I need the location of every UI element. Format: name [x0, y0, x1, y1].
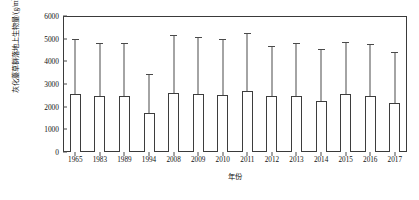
y-axis-title-text: 灰化薹草群落地上生物量/(g/m — [12, 0, 20, 93]
bar-slot — [333, 16, 358, 152]
x-axis-tick-label: 1994 — [142, 156, 156, 164]
bar-slot — [358, 16, 383, 152]
error-bar — [247, 33, 248, 91]
bar-slot — [210, 16, 235, 152]
x-axis-tick: 1983 — [88, 152, 113, 166]
x-axis-tick: 1965 — [63, 152, 88, 166]
x-axis-tick-mark — [271, 152, 272, 156]
x-axis-tick: 2010 — [210, 152, 235, 166]
error-bar — [124, 43, 125, 97]
x-axis-tick: 2012 — [260, 152, 285, 166]
x-axis-tick: 1989 — [112, 152, 137, 166]
x-axis-tick: 2013 — [284, 152, 309, 166]
error-bar-cap — [146, 74, 153, 75]
x-axis-tick-mark — [370, 152, 371, 156]
error-bar-cap — [121, 43, 128, 44]
error-bar-cap — [318, 49, 325, 50]
y-axis-tick-label: 6000 — [23, 12, 59, 21]
y-axis-title: 灰化薹草群落地上生物量/(g/m2) — [9, 0, 21, 114]
error-bar — [173, 35, 174, 93]
x-axis-tick-mark — [149, 152, 150, 156]
y-axis-tick-label: 3000 — [23, 80, 59, 89]
error-bar-cap — [367, 44, 374, 45]
error-bar-cap — [391, 52, 398, 53]
error-bar-cap — [195, 37, 202, 38]
x-axis-tick: 2016 — [358, 152, 383, 166]
error-bar — [198, 37, 199, 94]
chart-figure: 灰化薹草群落地上生物量/(g/m2) 010002000300040005000… — [0, 0, 419, 200]
y-axis-tick-label: 5000 — [23, 34, 59, 43]
x-axis-ticks: 1965198319891994200820092010201120122013… — [63, 152, 407, 166]
x-axis-tick-label: 2013 — [289, 156, 303, 164]
y-axis-tick-label: 0 — [23, 148, 59, 157]
error-bar-cap — [293, 43, 300, 44]
x-axis-tick-mark — [321, 152, 322, 156]
bar-slot — [309, 16, 334, 152]
x-axis-tick: 1994 — [137, 152, 162, 166]
bar — [94, 96, 105, 152]
error-bar — [394, 52, 395, 103]
y-axis-tick-label: 1000 — [23, 125, 59, 134]
error-bar — [75, 39, 76, 95]
error-bar — [321, 49, 322, 101]
bar — [316, 101, 327, 152]
error-bar-cap — [170, 35, 177, 36]
bar — [193, 94, 204, 152]
bar — [266, 96, 277, 152]
bar-slot — [137, 16, 162, 152]
error-bar — [222, 39, 223, 95]
error-bar-cap — [219, 39, 226, 40]
x-axis-tick-mark — [345, 152, 346, 156]
x-axis-tick-mark — [173, 152, 174, 156]
x-axis-tick-mark — [75, 152, 76, 156]
x-axis-tick-label: 2015 — [338, 156, 352, 164]
x-axis-tick: 2017 — [383, 152, 408, 166]
bar — [242, 91, 253, 152]
error-bar — [149, 74, 150, 113]
error-bar — [345, 42, 346, 94]
bar-slot — [284, 16, 309, 152]
y-axis-tick-label: 2000 — [23, 102, 59, 111]
x-axis-tick-mark — [198, 152, 199, 156]
bar — [70, 94, 81, 152]
error-bar-cap — [342, 42, 349, 43]
x-axis-tick-mark — [247, 152, 248, 156]
x-axis-tick: 2014 — [309, 152, 334, 166]
bar-series — [63, 16, 407, 152]
bar — [217, 95, 228, 152]
x-axis-tick: 2009 — [186, 152, 211, 166]
x-axis-tick-mark — [394, 152, 395, 156]
x-axis-tick: 2011 — [235, 152, 260, 166]
x-axis-tick-label: 2014 — [314, 156, 328, 164]
x-axis-tick-label: 2017 — [388, 156, 402, 164]
bar-slot — [161, 16, 186, 152]
x-axis-tick-mark — [99, 152, 100, 156]
bar — [119, 96, 130, 152]
error-bar — [99, 43, 100, 96]
error-bar — [370, 44, 371, 96]
bar-slot — [63, 16, 88, 152]
bar — [168, 93, 179, 152]
x-axis-tick-label: 2010 — [216, 156, 230, 164]
x-axis-tick-label: 1989 — [117, 156, 131, 164]
bar-slot — [235, 16, 260, 152]
error-bar-cap — [244, 33, 251, 34]
x-axis-tick-label: 2012 — [265, 156, 279, 164]
plot-area: 0100020003000400050006000 — [63, 16, 407, 152]
bar — [291, 96, 302, 152]
bar-slot — [186, 16, 211, 152]
error-bar-cap — [72, 39, 79, 40]
x-axis-tick-label: 2011 — [240, 156, 254, 164]
x-axis-tick: 2008 — [161, 152, 186, 166]
x-axis-tick-label: 2016 — [363, 156, 377, 164]
error-bar — [296, 43, 297, 96]
bar — [389, 103, 400, 152]
bar — [340, 94, 351, 152]
bar-slot — [112, 16, 137, 152]
bar-slot — [88, 16, 113, 152]
x-axis-tick-mark — [124, 152, 125, 156]
bar-slot — [260, 16, 285, 152]
x-axis-tick-mark — [222, 152, 223, 156]
x-axis-tick-label: 2009 — [191, 156, 205, 164]
x-axis-title: 年份 — [63, 170, 407, 181]
